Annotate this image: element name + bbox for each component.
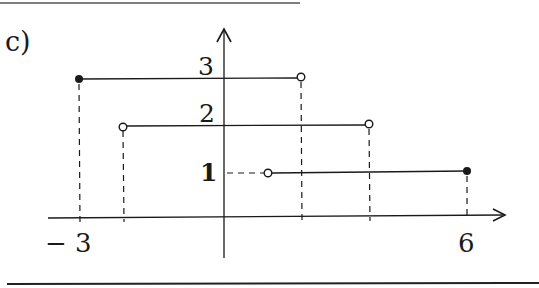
x-axis <box>48 209 505 221</box>
y-axis <box>217 29 231 258</box>
bottom-rule <box>7 283 539 284</box>
segment-level-1 <box>264 167 471 177</box>
y-tick-label-2: 2 <box>199 99 215 128</box>
y-tick-label-3: 3 <box>198 52 214 81</box>
open-endpoint-circle <box>119 123 127 131</box>
segment-level-3 <box>75 73 305 83</box>
closed-endpoint-dot <box>463 167 471 175</box>
closed-endpoint-dot <box>75 75 83 83</box>
open-endpoint-circle <box>365 120 373 128</box>
x-tick-label-neg3: − 3 <box>45 228 92 258</box>
y-tick-label-1: 1 <box>200 158 217 187</box>
segment-level-2 <box>119 120 373 131</box>
open-endpoint-circle <box>297 73 305 81</box>
part-label: c) <box>5 26 31 57</box>
x-tick-label-6: 6 <box>458 228 475 258</box>
step-function-diagram: c) 3 2 1 − 3 6 <box>0 0 539 288</box>
open-endpoint-circle <box>264 169 272 177</box>
dashed-guides <box>79 82 467 222</box>
